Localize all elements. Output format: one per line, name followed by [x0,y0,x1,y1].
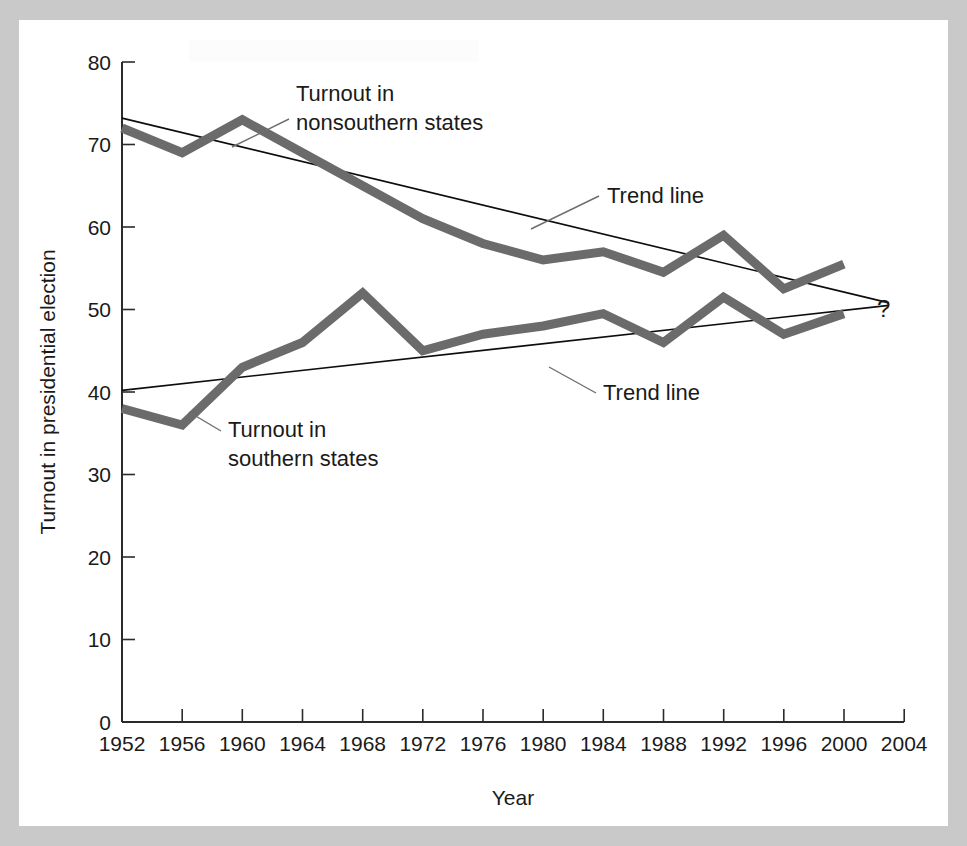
annotation-question-mark: ? [877,295,890,322]
x-tick-label: 1992 [700,732,747,755]
annotation-southern-line1: Turnout in [228,417,326,442]
annotation-nonsouthern-line1: Turnout in [296,81,394,106]
annotation-nonsouthern-line2: nonsouthern states [296,110,483,135]
y-tick-label: 80 [88,51,111,74]
x-tick-label: 1980 [520,732,567,755]
x-axis-title: Year [492,786,534,809]
x-tick-label: 1984 [580,732,627,755]
y-tick-labels: 80 70 60 50 40 30 20 10 0 [88,51,111,734]
x-tick-label: 1996 [760,732,807,755]
x-tick-label: 1976 [460,732,507,755]
x-tick-label: 1964 [279,732,326,755]
x-tick-label: 1988 [640,732,687,755]
y-tick-label: 30 [88,463,111,486]
x-tick-label: 1956 [159,732,206,755]
turnout-line-chart: 80 70 60 50 40 30 20 10 0 [19,20,948,826]
y-tick-label: 60 [88,216,111,239]
y-tick-label: 40 [88,381,111,404]
y-tick-label: 20 [88,546,111,569]
y-tick-label: 70 [88,133,111,156]
x-tick-label: 1968 [339,732,386,755]
y-tick-label: 10 [88,628,111,651]
annotation-trend-upper: Trend line [607,183,704,208]
x-tick-label: 2000 [821,732,868,755]
y-tick-label: 0 [99,711,111,734]
figure-panel: 80 70 60 50 40 30 20 10 0 [19,20,948,826]
x-tick-label: 1952 [99,732,146,755]
annotation-trend-lower: Trend line [603,380,700,405]
ghost-artifact [189,40,479,62]
annotation-southern-line2: southern states [228,446,378,471]
x-tick-label: 1972 [399,732,446,755]
x-tick-label: 2004 [881,732,928,755]
x-tick-label: 1960 [219,732,266,755]
y-axis-title: Turnout in presidential election [36,249,59,534]
y-tick-label: 50 [88,298,111,321]
